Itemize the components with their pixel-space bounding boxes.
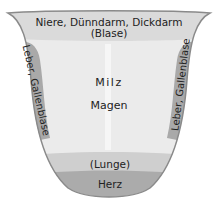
label-lunge: (Lunge)	[90, 158, 130, 170]
label-top-line2: (Blase)	[91, 27, 128, 39]
label-milz: Milz	[95, 76, 122, 89]
label-magen: Magen	[91, 99, 128, 112]
tongue-diagram: Niere, Dünndarm, Dickdarm (Blase) Leber,…	[0, 0, 217, 216]
label-herz: Herz	[98, 178, 123, 190]
